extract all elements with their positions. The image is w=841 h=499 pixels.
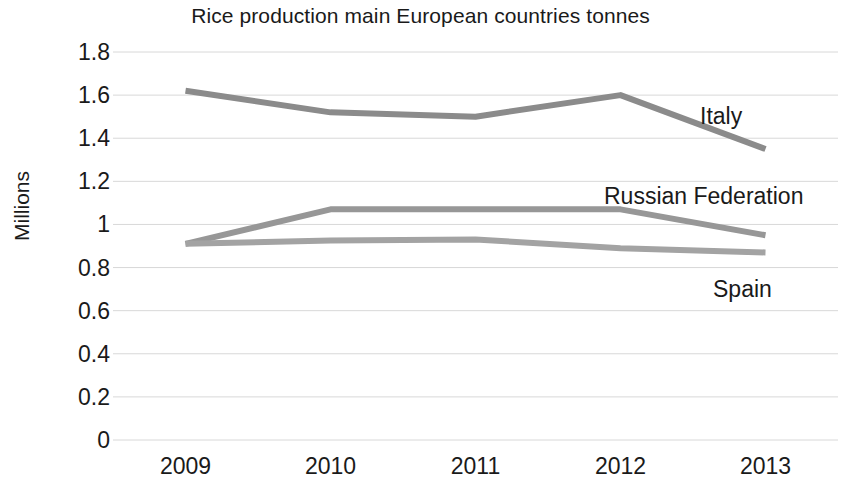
series-line-spain xyxy=(186,240,766,253)
plot-area xyxy=(0,0,841,499)
chart-container: Rice production main European countries … xyxy=(0,0,841,499)
series-label-italy: Italy xyxy=(700,103,742,130)
series-lines xyxy=(186,91,766,253)
series-label-russian-federation: Russian Federation xyxy=(604,183,803,210)
series-label-spain: Spain xyxy=(713,276,772,303)
series-line-italy xyxy=(186,91,766,149)
